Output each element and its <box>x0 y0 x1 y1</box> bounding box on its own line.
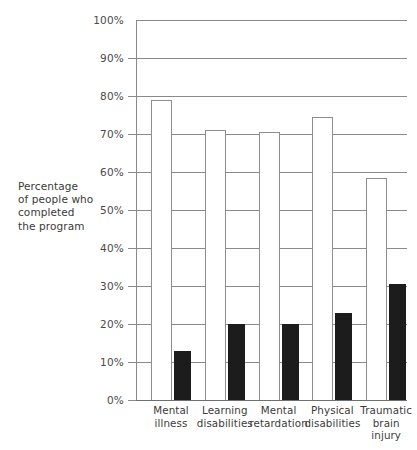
bar-white <box>259 132 280 400</box>
y-tick-label: 10% <box>82 356 124 368</box>
x-axis-label: Mentalretardation <box>249 404 309 429</box>
x-axis-label-line: Mental <box>249 404 309 417</box>
x-axis-label-line: Traumatic <box>356 404 416 417</box>
bar-black <box>228 324 245 400</box>
bar-black <box>389 284 406 400</box>
x-axis-label-line: Mental <box>141 404 201 417</box>
gridline <box>136 58 407 59</box>
y-tick-label: 30% <box>82 280 124 292</box>
x-axis-label-line: disabilities <box>302 417 362 430</box>
y-tick-label: 0% <box>82 394 124 406</box>
y-tick-mark <box>128 362 136 363</box>
x-axis-label: Learningdisabilities <box>195 404 255 429</box>
y-tick-mark <box>128 286 136 287</box>
y-tick-label: 70% <box>82 128 124 140</box>
x-axis-label: Physicaldisabilities <box>302 404 362 429</box>
y-tick-mark <box>128 400 136 401</box>
x-axis-label: Mentalillness <box>141 404 201 429</box>
gridline <box>136 96 407 97</box>
bar-white <box>312 117 333 400</box>
x-axis-label: Traumaticbraininjury <box>356 404 416 442</box>
y-tick-label: 20% <box>82 318 124 330</box>
y-tick-mark <box>128 58 136 59</box>
x-axis-line <box>136 400 407 401</box>
y-tick-label: 80% <box>82 90 124 102</box>
x-axis-label-line: injury <box>356 429 416 442</box>
y-tick-label: 90% <box>82 52 124 64</box>
bar-black <box>282 324 299 400</box>
bar-black <box>335 313 352 400</box>
y-tick-mark <box>128 210 136 211</box>
bar-black <box>174 351 191 400</box>
y-tick-label: 60% <box>82 166 124 178</box>
x-axis-label-line: disabilities <box>195 417 255 430</box>
y-tick-mark <box>128 96 136 97</box>
y-tick-mark <box>128 248 136 249</box>
bar-white <box>366 178 387 400</box>
bar-white <box>151 100 172 400</box>
x-axis-label-line: Learning <box>195 404 255 417</box>
y-tick-mark <box>128 134 136 135</box>
x-axis-label-line: brain <box>356 417 416 430</box>
y-tick-label: 50% <box>82 204 124 216</box>
y-tick-label: 40% <box>82 242 124 254</box>
bar-white <box>205 130 226 400</box>
y-tick-mark <box>128 172 136 173</box>
y-axis-title-line-4: the program <box>18 220 110 233</box>
x-axis-label-line: Physical <box>302 404 362 417</box>
y-tick-label: 100% <box>82 14 124 26</box>
y-tick-mark <box>128 324 136 325</box>
x-axis-label-line: retardation <box>249 417 309 430</box>
plot-area <box>136 20 407 400</box>
bar-chart: Percentage of people who completed the p… <box>0 0 417 450</box>
x-axis-label-line: illness <box>141 417 201 430</box>
y-axis-title-line-1: Percentage <box>18 180 110 193</box>
